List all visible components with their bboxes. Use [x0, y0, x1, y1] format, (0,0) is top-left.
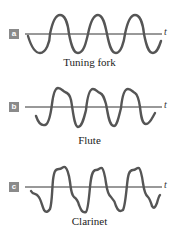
axis-label-t-b: t — [164, 99, 167, 110]
clarinet-wave — [31, 167, 160, 212]
waveforms-canvas — [0, 0, 179, 237]
panel-tag-c: c — [9, 182, 19, 192]
panel-tag-b: b — [9, 102, 19, 112]
axis-label-t-a: t — [164, 26, 167, 37]
panel-tag-a: a — [9, 29, 19, 39]
caption-tuning-fork: Tuning fork — [0, 56, 179, 68]
caption-flute: Flute — [0, 134, 179, 146]
caption-clarinet: Clarinet — [0, 215, 179, 227]
axis-label-t-c: t — [164, 179, 167, 190]
